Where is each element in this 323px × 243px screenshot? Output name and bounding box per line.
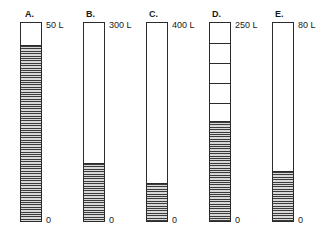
cylinder-letter-label: E. bbox=[275, 9, 284, 19]
cylinder-liquid-fill bbox=[273, 171, 293, 221]
cylinder-capacity-label: 80 L bbox=[298, 20, 316, 30]
cylinders-figure: A.50 L0B.300 L0C.400 L0D.250 L0E.80 L0 bbox=[0, 0, 323, 243]
cylinder-tube bbox=[272, 22, 294, 222]
cylinder-zero-label: 0 bbox=[298, 215, 303, 225]
cylinder-e: E.80 L0 bbox=[0, 0, 323, 243]
